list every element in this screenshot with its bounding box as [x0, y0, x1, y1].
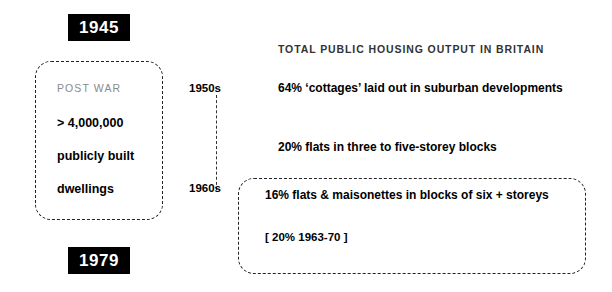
output-stat-note: [ 20% 1963-70 ]: [265, 231, 347, 243]
decade-label-1960s: 1960s: [189, 182, 221, 194]
year-badge-end-label: 1979: [79, 251, 119, 271]
diagram-canvas: 1945 1979 POST WAR > 4,000,000 publicly …: [0, 0, 612, 292]
output-title: TOTAL PUBLIC HOUSING OUTPUT IN BRITAIN: [278, 43, 544, 55]
year-badge-start-label: 1945: [79, 18, 119, 38]
year-badge-start: 1945: [68, 14, 130, 41]
output-stat-high-rise-flats: 16% flats & maisonettes in blocks of six…: [265, 188, 549, 202]
output-stat-cottages: 64% ‘cottages’ laid out in suburban deve…: [278, 81, 563, 95]
output-stat-low-rise-flats: 20% flats in three to five-storey blocks: [278, 140, 497, 154]
year-badge-end: 1979: [68, 247, 130, 274]
timeline-axis: [216, 95, 217, 190]
postwar-line-dwellings: dwellings: [57, 182, 114, 196]
postwar-label: POST WAR: [57, 82, 121, 94]
postwar-line-dwelling-count: > 4,000,000: [57, 116, 123, 130]
postwar-line-publicly-built: publicly built: [57, 149, 134, 163]
decade-label-1950s: 1950s: [189, 82, 221, 94]
